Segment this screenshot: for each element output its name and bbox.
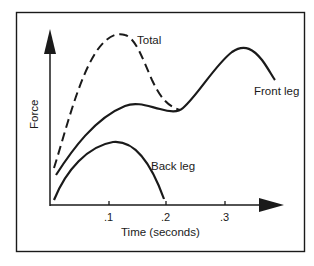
x-tick-label-3: .3 [220, 211, 229, 223]
x-tick-label-1: .1 [104, 211, 113, 223]
label-front-leg: Front leg [254, 85, 299, 97]
label-back-leg: Back leg [151, 160, 195, 172]
label-total: Total [137, 34, 161, 46]
x-axis-label: Time (seconds) [121, 226, 200, 238]
series-back-leg [54, 142, 164, 200]
y-axis-arrow-icon [44, 29, 56, 54]
x-axis-arrow-icon [259, 198, 284, 212]
x-tick-label-2: .2 [161, 211, 170, 223]
series-front-leg [56, 48, 275, 175]
series-total [54, 34, 180, 168]
force-time-chart: .1 .2 .3 Time (seconds) Force Total Fron… [0, 0, 314, 266]
y-axis-label: Force [28, 100, 40, 129]
